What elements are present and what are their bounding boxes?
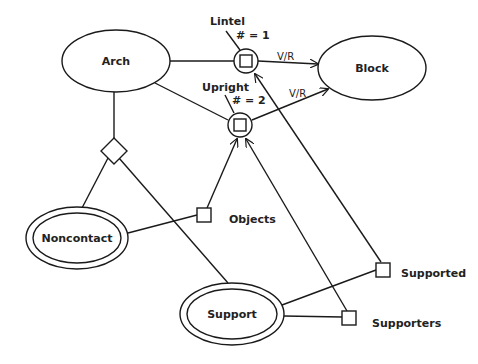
upright-label: Upright [202, 81, 249, 94]
edge-support-supported [282, 270, 376, 305]
node-supporters[interactable]: Supporters [342, 311, 442, 330]
edge-noncontact-objects [128, 215, 197, 233]
upright-count: # = 2 [232, 94, 266, 107]
node-arch[interactable]: Arch [62, 30, 170, 92]
node-block[interactable]: Block [318, 36, 426, 100]
node-support[interactable]: Support [180, 283, 284, 345]
edge-supported-lintel [255, 74, 381, 262]
edge-diamond-noncontact [82, 158, 108, 208]
objects-label: Objects [229, 213, 276, 226]
node-objects[interactable]: Objects [197, 208, 276, 226]
supporters-square [342, 311, 356, 325]
node-noncontact[interactable]: Noncontact [26, 207, 128, 269]
objects-square [197, 208, 211, 222]
node-lintel[interactable]: Lintel # = 1 [210, 15, 270, 73]
node-diamond[interactable] [101, 138, 127, 164]
lintel-label: Lintel [210, 15, 245, 28]
block-label: Block [355, 62, 389, 75]
noncontact-label: Noncontact [42, 232, 113, 245]
node-upright[interactable]: Upright # = 2 [202, 81, 266, 137]
edge-support-supporters [284, 316, 342, 317]
edge-objects-upright [207, 139, 237, 208]
supporters-label: Supporters [372, 317, 442, 330]
upright-block-edge-label: V/R [289, 88, 306, 99]
node-supported[interactable]: Supported [376, 263, 466, 280]
lintel-block-edge-label: V/R [277, 51, 294, 62]
arch-label: Arch [102, 55, 130, 68]
lintel-square [240, 55, 252, 67]
support-label: Support [207, 308, 257, 321]
upright-square [234, 119, 246, 131]
lintel-count: # = 1 [236, 29, 270, 42]
supported-label: Supported [401, 267, 466, 280]
semantic-network-diagram: Arch Block Lintel # = 1 Upright # = 2 V/… [0, 0, 478, 364]
supported-square [376, 263, 390, 277]
